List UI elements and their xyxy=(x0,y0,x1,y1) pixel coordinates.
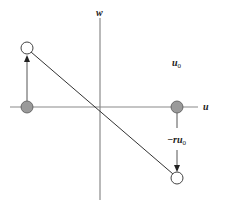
right-start-point xyxy=(171,101,183,113)
diagonal-line xyxy=(31,52,173,174)
phase-plane-diagram xyxy=(0,0,228,215)
vertical-axis-label: w xyxy=(96,8,103,18)
left-start-point xyxy=(21,101,33,113)
neg-r-u0-label: −ru0 xyxy=(167,135,186,148)
lower-right-end-point xyxy=(171,172,183,184)
upper-left-end-point xyxy=(21,42,33,54)
diagram-canvas: w u u0 −ru0 xyxy=(0,0,228,215)
u0-label: u0 xyxy=(172,58,181,71)
up-arrowhead-icon xyxy=(24,55,30,62)
horizontal-axis-label: u xyxy=(203,102,209,112)
down-arrowhead-icon xyxy=(174,165,180,172)
